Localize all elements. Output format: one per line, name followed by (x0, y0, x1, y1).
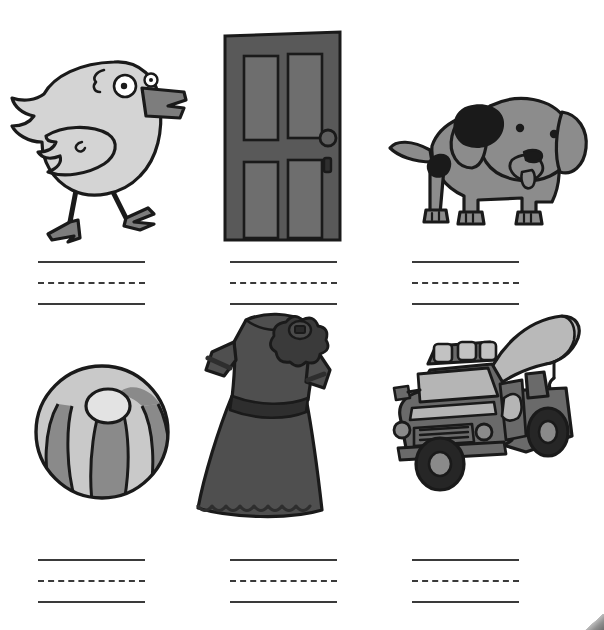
duck-illustration (8, 30, 198, 245)
rule-line-bottom (38, 303, 145, 305)
page-corner-curl (582, 614, 604, 630)
rule-line-top (38, 261, 145, 263)
writing-lines-ball (38, 559, 145, 605)
writing-lines-truck (412, 559, 519, 605)
picture-cell-dog (386, 60, 596, 245)
truck-illustration (376, 312, 596, 508)
rule-line-middle (230, 282, 337, 284)
picture-cell-door (222, 28, 346, 243)
picture-cell-dress (190, 308, 350, 520)
rule-line-bottom (412, 601, 519, 603)
rule-line-top (412, 559, 519, 561)
writing-lines-dress (230, 559, 337, 605)
worksheet-page (0, 0, 604, 630)
rule-line-middle (38, 282, 145, 284)
rule-line-middle (412, 282, 519, 284)
ball-illustration (32, 362, 172, 502)
door-illustration (222, 28, 346, 243)
picture-cell-ball (32, 362, 172, 502)
rule-line-top (230, 261, 337, 263)
dog-illustration (386, 60, 596, 245)
rule-line-top (230, 559, 337, 561)
dress-illustration (190, 308, 350, 520)
rule-line-middle (230, 580, 337, 582)
writing-lines-duck (38, 261, 145, 307)
rule-line-top (38, 559, 145, 561)
rule-line-bottom (230, 601, 337, 603)
rule-line-top (412, 261, 519, 263)
rule-line-middle (412, 580, 519, 582)
picture-cell-duck (8, 30, 198, 245)
rule-line-bottom (412, 303, 519, 305)
picture-cell-truck (376, 312, 596, 508)
rule-line-bottom (38, 601, 145, 603)
writing-lines-door (230, 261, 337, 307)
rule-line-middle (38, 580, 145, 582)
rule-line-bottom (230, 303, 337, 305)
writing-lines-dog (412, 261, 519, 307)
